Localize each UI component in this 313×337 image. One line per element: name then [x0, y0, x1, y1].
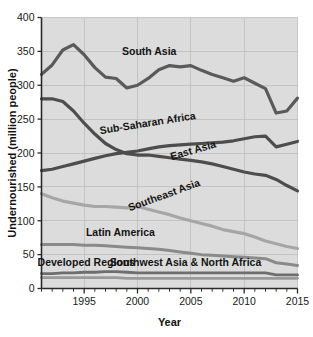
line-chart: 0501001502002503003504001995200020052010… [0, 0, 313, 337]
x-tick-label: 2010 [232, 295, 256, 307]
y-axis-title: Undernourished (million people) [6, 68, 18, 238]
series-label-6: Developed Regions [38, 256, 136, 268]
y-tick-label: 400 [17, 11, 35, 23]
series-line-6 [42, 278, 298, 279]
x-tick-label: 2005 [179, 295, 203, 307]
y-tick-label: 250 [17, 113, 35, 125]
y-tick-label: 0 [29, 282, 35, 294]
series-label-0: South Asia [122, 45, 177, 57]
y-tick-label: 150 [17, 181, 35, 193]
y-tick-label: 300 [17, 79, 35, 91]
x-tick-label: 2015 [286, 295, 310, 307]
y-tick-label: 200 [17, 147, 35, 159]
x-tick-label: 2000 [126, 295, 150, 307]
y-tick-label: 100 [17, 215, 35, 227]
chart-container: 0501001502002503003504001995200020052010… [0, 0, 313, 337]
x-axis-title: Year [158, 316, 182, 328]
y-tick-label: 50 [23, 248, 35, 260]
y-tick-label: 350 [17, 45, 35, 57]
series-label-4: Latin America [86, 226, 155, 238]
x-tick-label: 1995 [72, 295, 96, 307]
